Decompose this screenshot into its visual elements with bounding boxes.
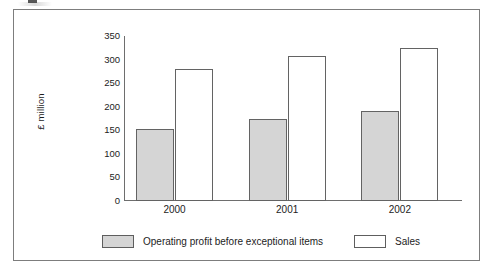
y-tick-label: 100 [86,149,120,159]
bar-profit-2000 [136,129,174,201]
y-tick-label: 300 [86,55,120,65]
y-tick-label: 350 [86,31,120,41]
y-tick-label: 250 [86,78,120,88]
figure-root: £ million 350300250200150100500 20002001… [0,0,494,273]
y-axis-label: £ million [35,62,46,162]
y-tick-label: 150 [86,125,120,135]
legend-label-profit: Operating profit before exceptional item… [143,236,323,247]
x-tick-label-2002: 2002 [370,204,430,215]
x-tick-label-2000: 2000 [145,204,205,215]
bar-chart: £ million 350300250200150100500 20002001… [14,10,481,262]
legend-label-sales: Sales [395,236,420,247]
y-tick-label: 200 [86,102,120,112]
x-tick-label-2001: 2001 [257,204,317,215]
figure-frame: £ million 350300250200150100500 20002001… [13,9,480,261]
y-tick-label: 0 [86,196,120,206]
bar-sales-2001 [288,56,326,201]
legend-swatch-sales-icon [354,235,386,248]
bar-profit-2001 [249,119,287,201]
legend-item-sales: Sales [354,235,420,248]
bars-layer [124,36,462,201]
bar-profit-2002 [361,111,399,201]
legend-swatch-profit-icon [102,235,134,248]
scan-artifact-mark [28,0,37,3]
chart-legend: Operating profit before exceptional item… [102,235,420,248]
bar-sales-2002 [400,48,438,201]
bar-sales-2000 [175,69,213,201]
legend-item-profit: Operating profit before exceptional item… [102,235,323,248]
y-tick-label: 50 [86,172,120,182]
